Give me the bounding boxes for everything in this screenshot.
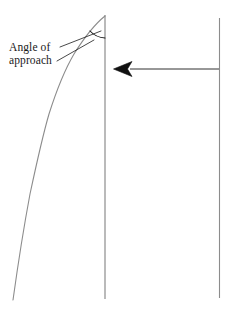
angle-label-line1: Angle of bbox=[9, 41, 50, 54]
angle-of-approach-diagram: Angle of approach bbox=[0, 0, 241, 316]
diagram-canvas: Angle of approach bbox=[0, 0, 241, 316]
angle-label-line2: approach bbox=[9, 54, 52, 67]
